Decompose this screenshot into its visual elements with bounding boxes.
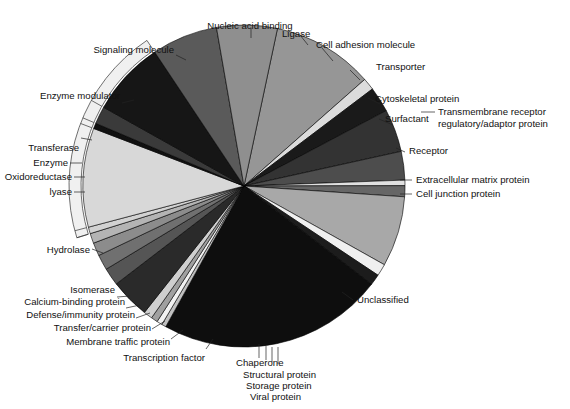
- label-membrane-traffic-protein: Membrane traffic protein: [20, 336, 170, 347]
- label-enzyme: Enzyme: [0, 157, 68, 168]
- label-oxidoreductase: Oxidoreductase: [0, 171, 72, 182]
- label-cell-adhesion-molecule: Cell adhesion molecule: [316, 39, 415, 50]
- label-ligase: Ligase: [282, 28, 310, 39]
- label-nucleic-acid-binding: Nucleic acid binding: [160, 20, 340, 31]
- label-viral-protein: Viral protein: [250, 391, 301, 402]
- label-cell-junction-protein: Cell junction protein: [416, 188, 500, 199]
- label-unclassified: Unclassified: [357, 294, 409, 305]
- label-transporter: Transporter: [376, 61, 425, 72]
- label-defense-immunity-protein: Defense/immunity protein: [0, 309, 135, 320]
- label-calcium-binding-protein: Calcium-binding protein: [0, 296, 125, 307]
- label-transmembrane-receptor-line2: regulatory/adaptor protein: [438, 118, 548, 129]
- label-transmembrane-receptor-line1: Transmembrane receptor: [438, 106, 546, 117]
- label-enzyme-modulator: Enzyme modulator: [0, 90, 120, 101]
- label-isomerase: Isomerase: [0, 284, 115, 295]
- label-transferase: Transferase: [0, 142, 79, 153]
- label-cytoskeletal-protein: Cytoskeletal protein: [375, 93, 459, 104]
- label-hydrolase: Hydrolase: [0, 244, 90, 255]
- label-chaperone: Chaperone: [236, 357, 283, 368]
- label-receptor: Receptor: [409, 145, 448, 156]
- label-lyase: lyase: [0, 186, 72, 197]
- label-extracellular-matrix-protein: Extracellular matrix protein: [416, 174, 530, 185]
- label-surfactant: Surfactant: [385, 113, 429, 124]
- label-transfer-carrier-protein: Transfer/carrier protein: [10, 322, 151, 333]
- pie-chart-figure: Nucleic acid binding Ligase Cell adhesio…: [0, 0, 570, 409]
- label-transcription-factor: Transcription factor: [60, 352, 205, 363]
- label-signaling-molecule: Signaling molecule: [0, 44, 174, 55]
- label-storage-protein: Storage protein: [246, 380, 312, 391]
- pie-chart-svg: [0, 0, 570, 409]
- label-structural-protein: Structural protein: [243, 369, 316, 380]
